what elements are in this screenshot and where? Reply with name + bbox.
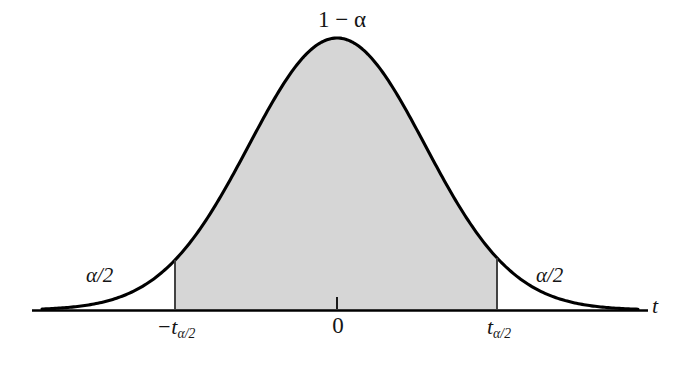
right-critical-value-label: tα/2 xyxy=(462,316,536,341)
left-critical-value-label: −tα/2 xyxy=(135,316,217,341)
axis-variable-label: t xyxy=(652,295,658,317)
right-tail-area-label: α/2 xyxy=(536,265,563,286)
left-critical-value-base: −t xyxy=(156,314,177,339)
left-tail-area-label: α/2 xyxy=(86,265,113,286)
distribution-curve-svg xyxy=(0,0,688,365)
shaded-confidence-region xyxy=(175,38,497,310)
center-tick-label: 0 xyxy=(318,314,358,337)
right-critical-value-subscript: α/2 xyxy=(493,326,511,341)
left-critical-value-subscript: α/2 xyxy=(177,326,195,341)
t-distribution-figure: 1 − α α/2 α/2 0 −tα/2 tα/2 t xyxy=(0,0,688,365)
confidence-area-label: 1 − α xyxy=(0,8,686,31)
